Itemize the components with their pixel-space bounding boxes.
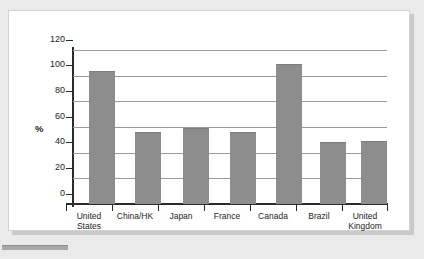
- x-category-label-united-states: United States: [66, 211, 112, 231]
- plot-area: [73, 50, 387, 204]
- x-category-label-line2: States: [66, 221, 112, 231]
- gridline-100: [73, 76, 387, 77]
- y-axis-title: %: [35, 123, 43, 134]
- x-category-label-line1: United: [77, 211, 102, 221]
- bar-canada[interactable]: [276, 64, 302, 204]
- y-tick-label-20: 20: [55, 163, 65, 172]
- y-axis-tick-labels: 120 100 80 60 40 20 0: [9, 11, 65, 232]
- bar-brazil[interactable]: [320, 142, 346, 204]
- x-category-label-line1: Brazil: [308, 211, 329, 221]
- x-category-label-japan: Japan: [158, 211, 204, 221]
- x-category-label-china-hk: China/HK: [112, 211, 158, 221]
- bar-united-states[interactable]: [89, 71, 115, 204]
- x-category-label-france: France: [204, 211, 250, 221]
- x-category-label-line2: Kingdom: [342, 221, 388, 231]
- bar-united-kingdom[interactable]: [361, 141, 387, 204]
- x-category-label-united-kingdom: United Kingdom: [342, 211, 388, 231]
- x-category-label-line1: United: [353, 211, 378, 221]
- gridline-60: [73, 127, 387, 128]
- caption-rule: [2, 245, 68, 250]
- bar-france[interactable]: [230, 132, 256, 204]
- y-tick-label-60: 60: [55, 112, 65, 121]
- bar-japan[interactable]: [183, 128, 209, 204]
- x-category-label-line1: Japan: [169, 211, 192, 221]
- x-category-label-brazil: Brazil: [296, 211, 342, 221]
- y-tick-label-0: 0: [60, 189, 65, 198]
- x-category-label-line1: China/HK: [117, 211, 153, 221]
- gridline-80: [73, 101, 387, 102]
- figure-root: 120 100 80 60 40 20 0 %: [0, 0, 424, 259]
- y-tick-label-120: 120: [50, 35, 65, 44]
- x-category-label-line1: Canada: [258, 211, 288, 221]
- x-category-label-line1: France: [214, 211, 240, 221]
- bar-china-hk[interactable]: [135, 132, 161, 204]
- x-category-label-canada: Canada: [250, 211, 296, 221]
- y-tick-mark-120: [66, 40, 73, 41]
- gridline-120: [73, 50, 387, 51]
- y-tick-label-100: 100: [50, 60, 65, 69]
- y-tick-label-80: 80: [55, 86, 65, 95]
- y-tick-label-40: 40: [55, 137, 65, 146]
- bar-chart-card: 120 100 80 60 40 20 0 %: [8, 10, 410, 231]
